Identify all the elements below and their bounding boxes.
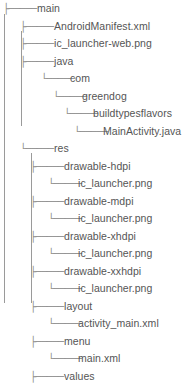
tree-row[interactable]: └─────ic_launcher.png xyxy=(0,175,182,193)
tree-elbow-icon: └───── xyxy=(48,350,82,368)
tree-tee-icon: ├───── xyxy=(20,18,54,36)
tree-node-label: drawable-mdpi xyxy=(64,193,134,211)
tree-node-label: drawable-hdpi xyxy=(64,158,131,176)
tree-row[interactable]: ├─────drawable-xhdpi xyxy=(0,228,182,246)
tree-tee-icon: ├───── xyxy=(20,35,54,53)
tree-row[interactable]: ├─────layout xyxy=(0,298,182,316)
tree-node-label: res xyxy=(54,140,69,158)
tree-node-label: drawable-xxhdpi xyxy=(64,263,141,281)
tree-tee-icon: ├───── xyxy=(30,193,64,211)
tree-row[interactable]: ├─────drawable-xxhdpi xyxy=(0,263,182,281)
tree-tee-icon: ├───── xyxy=(3,0,37,18)
tree-row[interactable]: ├─────AndroidManifest.xml xyxy=(0,18,182,36)
tree-node-label: ic_launcher.png xyxy=(78,210,152,228)
tree-node-label: ic_launcher-web.png xyxy=(54,35,152,53)
tree-node-label: AndroidManifest.xml xyxy=(54,18,150,36)
tree-row[interactable]: ├─────drawable-mdpi xyxy=(0,193,182,211)
tree-row[interactable]: ├─────values xyxy=(0,368,182,385)
tree-node-label: java xyxy=(54,53,73,71)
tree-elbow-icon: └───── xyxy=(48,175,82,193)
tree-node-label: drawable-xhdpi xyxy=(64,228,136,246)
tree-row[interactable]: └─────MainActivity.java xyxy=(0,123,182,141)
tree-row[interactable]: └─────main.xml xyxy=(0,350,182,368)
tree-tee-icon: ├───── xyxy=(30,228,64,246)
tree-elbow-icon: └───── xyxy=(48,245,82,263)
tree-elbow-icon: └───── xyxy=(48,280,82,298)
tree-tee-icon: ├───── xyxy=(30,263,64,281)
tree-tee-icon: ├───── xyxy=(30,368,64,385)
tree-node-label: ic_launcher.png xyxy=(78,280,152,298)
tree-tee-icon: ├───── xyxy=(20,53,54,71)
tree-elbow-icon: └───── xyxy=(20,140,54,158)
tree-row[interactable]: └─────activity_main.xml xyxy=(0,315,182,333)
tree-node-label: main.xml xyxy=(78,350,120,368)
tree-row[interactable]: ├─────java xyxy=(0,53,182,71)
tree-tee-icon: ├───── xyxy=(30,298,64,316)
tree-row[interactable]: ├─────ic_launcher-web.png xyxy=(0,35,182,53)
tree-row[interactable]: └─────greendog xyxy=(0,88,182,106)
tree-node-label: main xyxy=(37,0,60,18)
tree-row[interactable]: ├─────drawable-hdpi xyxy=(0,158,182,176)
tree-node-label: menu xyxy=(64,333,90,351)
tree-row[interactable]: └─────ic_launcher.png xyxy=(0,245,182,263)
tree-elbow-icon: └───── xyxy=(48,210,82,228)
tree-node-label: MainActivity.java xyxy=(103,123,181,141)
tree-node-label: activity_main.xml xyxy=(78,315,159,333)
tree-row[interactable]: └─────com xyxy=(0,70,182,88)
tree-row[interactable]: ├─────menu xyxy=(0,333,182,351)
tree-node-label: buildtypesflavors xyxy=(93,105,172,123)
tree-node-label: ic_launcher.png xyxy=(78,175,152,193)
tree-node-label: greendog xyxy=(82,88,127,106)
tree-node-label: values xyxy=(64,368,95,385)
tree-tee-icon: ├───── xyxy=(30,158,64,176)
tree-row[interactable]: └─────ic_launcher.png xyxy=(0,210,182,228)
tree-node-label: layout xyxy=(64,298,92,316)
tree-node-label: com xyxy=(70,70,90,88)
tree-elbow-icon: └───── xyxy=(48,315,82,333)
tree-row[interactable]: └─────buildtypesflavors xyxy=(0,105,182,123)
tree-node-label: ic_launcher.png xyxy=(78,245,152,263)
tree-row[interactable]: └─────ic_launcher.png xyxy=(0,280,182,298)
tree-row[interactable]: ├─────main xyxy=(0,0,182,18)
tree-tee-icon: ├───── xyxy=(30,333,64,351)
tree-row[interactable]: └─────res xyxy=(0,140,182,158)
